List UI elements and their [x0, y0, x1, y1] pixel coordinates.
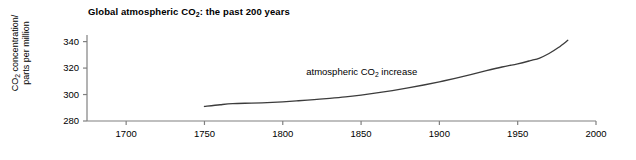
- x-tick-label-1800: 1800: [259, 128, 307, 139]
- x-tick-label-1900: 1900: [415, 128, 463, 139]
- y-tick-label-280: 280: [49, 115, 79, 126]
- x-tick-label-1750: 1750: [180, 128, 228, 139]
- chart-title-subscript: 2: [196, 11, 200, 18]
- y-axis-label-line1: CO2 concentration/: [10, 0, 21, 108]
- series-annotation-pre: atmospheric CO: [306, 66, 375, 77]
- chart-title: Global atmospheric CO2: the past 200 yea…: [88, 6, 290, 17]
- series-annotation-subscript: 2: [375, 71, 379, 78]
- y-tick-label-340: 340: [49, 36, 79, 47]
- chart-title-pre: Global atmospheric CO: [88, 6, 196, 17]
- y-axis-label-pre: CO: [10, 78, 20, 92]
- series-annotation-post: increase: [379, 66, 418, 77]
- y-axis-label-post: concentration/: [10, 15, 20, 74]
- x-tick-label-1700: 1700: [102, 128, 150, 139]
- x-tick-label-1950: 1950: [494, 128, 542, 139]
- axes-group: [83, 35, 596, 125]
- series-annotation: atmospheric CO2 increase: [306, 66, 417, 77]
- y-axis-label-subscript: 2: [14, 74, 21, 78]
- y-tick-label-300: 300: [49, 89, 79, 100]
- y-axis-label: CO2 concentration/ parts per million: [10, 0, 32, 108]
- y-tick-label-320: 320: [49, 62, 79, 73]
- y-axis-label-line2: parts per million: [21, 0, 32, 108]
- chart-title-post: : the past 200 years: [200, 6, 290, 17]
- x-tick-label-2000: 2000: [572, 128, 620, 139]
- chart-figure: Global atmospheric CO2: the past 200 yea…: [0, 0, 636, 160]
- x-tick-label-1850: 1850: [337, 128, 385, 139]
